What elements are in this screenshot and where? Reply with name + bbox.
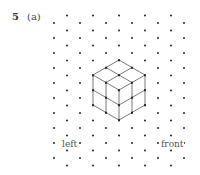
label-left: left xyxy=(61,139,78,149)
label-front: front xyxy=(160,139,184,149)
